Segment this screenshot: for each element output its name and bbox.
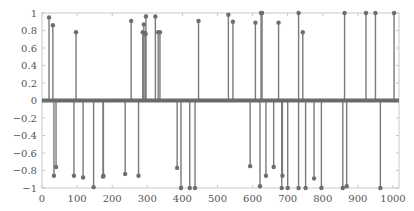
y-tick-label: 0.8: [21, 25, 37, 36]
y-tick-label: −0.4: [13, 130, 37, 141]
stem-marker: [280, 186, 284, 190]
stem-marker: [271, 165, 275, 169]
x-tick-label: 800: [313, 193, 332, 204]
stem-marker: [303, 186, 307, 190]
stem-marker: [260, 11, 264, 15]
x-tick-label: 900: [348, 193, 367, 204]
stem-marker: [179, 186, 183, 190]
y-tick-label: −1: [22, 183, 37, 194]
stem-marker: [54, 165, 58, 169]
stem-marker: [231, 20, 235, 24]
stem-marker: [72, 174, 76, 178]
y-tick-label: 0.6: [21, 43, 37, 54]
y-tick-label: 1: [31, 8, 37, 19]
stem-marker: [253, 20, 257, 24]
x-tick-label: 300: [138, 193, 157, 204]
stem-marker: [312, 176, 316, 180]
stem-marker: [373, 11, 377, 15]
stem-marker: [378, 186, 382, 190]
stem-marker: [319, 186, 323, 190]
x-tick-label: 200: [103, 193, 122, 204]
stem-marker: [101, 174, 105, 178]
stem-chart: 10.80.60.40.20−0.2−0.4−0.6−0.8−1 0100200…: [0, 0, 414, 211]
stem-marker: [143, 32, 147, 36]
y-tick-label: −0.2: [13, 113, 37, 124]
stem-marker: [392, 11, 396, 15]
stem-marker: [196, 19, 200, 23]
x-tick-label: 100: [68, 193, 87, 204]
stem-marker: [276, 20, 280, 24]
stem-marker: [342, 11, 346, 15]
x-tick-label: 500: [208, 193, 227, 204]
x-tick-label: 1000: [380, 193, 405, 204]
x-tick-label: 600: [243, 193, 262, 204]
stem-marker: [74, 30, 78, 34]
stem-marker: [341, 186, 345, 190]
stem-marker: [175, 166, 179, 170]
y-tick-label: −0.8: [13, 165, 37, 176]
stem-marker: [344, 184, 348, 188]
x-tick-label: 0: [39, 193, 45, 204]
y-tick-label: −0.6: [13, 148, 37, 159]
stem-marker: [193, 186, 197, 190]
stem-marker: [158, 30, 162, 34]
stem-marker: [296, 11, 300, 15]
stem-marker: [188, 186, 192, 190]
stem-marker: [142, 22, 146, 26]
stem-marker: [286, 186, 290, 190]
stem-marker: [364, 11, 368, 15]
stem-marker: [226, 13, 230, 17]
x-tick-label: 400: [173, 193, 192, 204]
stem-marker: [81, 175, 85, 179]
stem-marker: [280, 174, 284, 178]
stem-marker: [264, 174, 268, 178]
stem-marker: [52, 174, 56, 178]
stem-marker: [129, 19, 133, 23]
stem-marker: [258, 184, 262, 188]
stem-marker: [91, 185, 95, 189]
stem-marker: [153, 14, 157, 18]
y-tick-label: 0.2: [21, 78, 37, 89]
stem-marker: [51, 23, 55, 27]
stem-marker: [296, 186, 300, 190]
stem-marker: [301, 30, 305, 34]
stem-marker: [123, 172, 127, 176]
stem-marker: [47, 15, 51, 19]
x-tick-label: 700: [278, 193, 297, 204]
y-tick-label: 0: [31, 95, 37, 106]
stem-marker: [136, 174, 140, 178]
y-tick-label: 0.4: [21, 60, 37, 71]
stem-marker: [248, 164, 252, 168]
stem-marker: [144, 14, 148, 18]
